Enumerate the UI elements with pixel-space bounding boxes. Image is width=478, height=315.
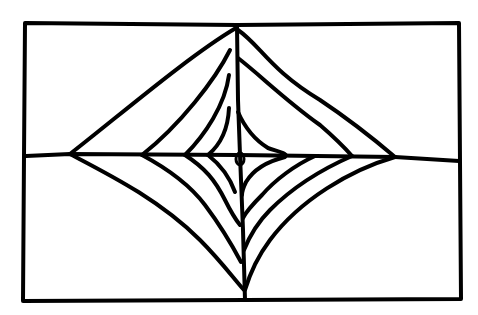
arc-upper-left-2	[142, 50, 230, 155]
arc-upper-right-1	[238, 30, 395, 157]
web-drawing	[0, 0, 478, 315]
arc-upper-right-3	[238, 112, 286, 157]
arc-lower-right-3	[243, 156, 315, 218]
arc-lower-right-2	[244, 156, 352, 250]
arc-lower-left-4	[208, 155, 235, 192]
arc-lower-right-1	[245, 157, 395, 290]
arc-upper-right-2	[238, 58, 352, 156]
arc-lower-right-4	[242, 157, 285, 195]
drawing-canvas: Hand-drawn nested diamond / spider web p…	[0, 0, 478, 315]
arc-upper-left-1	[70, 28, 236, 154]
arc-upper-left-4	[208, 108, 229, 155]
